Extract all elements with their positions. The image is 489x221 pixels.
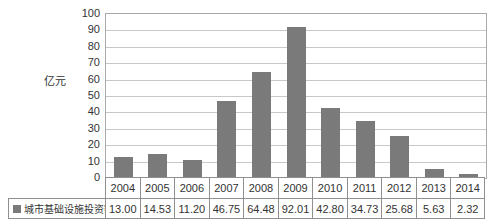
table-corner-empty	[8, 177, 105, 198]
year-header-cell: 2010	[312, 177, 347, 198]
year-header-cell: 2009	[278, 177, 313, 198]
y-tick-label: 70	[62, 56, 100, 68]
value-cell: 46.75	[209, 198, 244, 219]
bar-2004	[114, 157, 133, 178]
bar-2009	[287, 27, 306, 178]
data-table: 城市基础设施投资额 200420052006200720082009201020…	[8, 177, 485, 219]
bar-2010	[321, 108, 340, 178]
legend-label: 城市基础设施投资额	[24, 201, 105, 216]
value-cell: 25.68	[381, 198, 416, 219]
year-header-cell: 2012	[381, 177, 416, 198]
year-header-cell: 2006	[174, 177, 209, 198]
bar-2006	[183, 160, 202, 178]
y-tick-label: 30	[62, 122, 100, 134]
bar-2008	[252, 72, 271, 178]
value-cell: 64.48	[243, 198, 278, 219]
y-tick-label: 100	[62, 7, 100, 19]
plot-area	[105, 13, 487, 179]
value-cell: 14.53	[140, 198, 175, 219]
year-header-cell: 2004	[105, 177, 140, 198]
legend-marker-icon	[13, 205, 21, 213]
bar-chart: 亿元 1009080706050403020100 城市基础设施投资额 2004…	[0, 0, 489, 221]
y-tick-label: 50	[62, 89, 100, 101]
bar-2012	[390, 136, 409, 178]
y-tick-label: 10	[62, 155, 100, 167]
value-cell: 5.63	[416, 198, 451, 219]
bar-2011	[356, 121, 375, 178]
value-cell: 13.00	[105, 198, 140, 219]
bar-2007	[217, 101, 236, 178]
year-header-cell: 2008	[243, 177, 278, 198]
year-header-cell: 2011	[347, 177, 382, 198]
value-cell: 2.32	[450, 198, 485, 219]
y-tick-label: 90	[62, 23, 100, 35]
value-cell: 92.01	[278, 198, 313, 219]
bar-2005	[148, 154, 167, 178]
year-header-cell: 2014	[450, 177, 485, 198]
y-tick-label: 40	[62, 105, 100, 117]
y-tick-label: 20	[62, 138, 100, 150]
year-header-cell: 2007	[209, 177, 244, 198]
legend-cell: 城市基础设施投资额	[8, 198, 105, 219]
y-tick-label: 60	[62, 73, 100, 85]
y-tick-label: 80	[62, 40, 100, 52]
year-header-cell: 2005	[140, 177, 175, 198]
value-cell: 34.73	[347, 198, 382, 219]
value-cell: 42.80	[312, 198, 347, 219]
value-cell: 11.20	[174, 198, 209, 219]
year-header-cell: 2013	[416, 177, 451, 198]
